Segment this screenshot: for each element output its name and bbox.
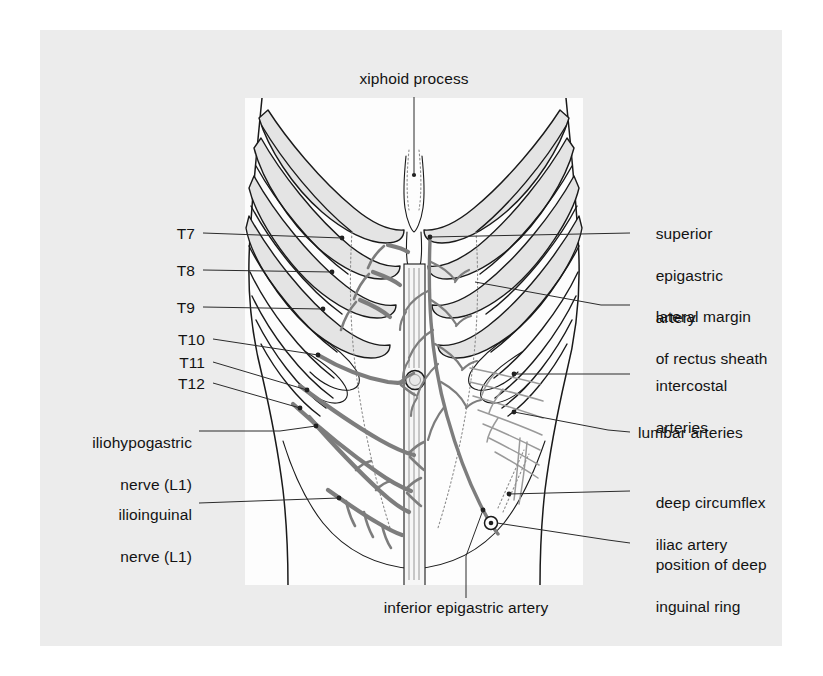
label-t7: T7	[95, 223, 195, 244]
rib-cage-left	[246, 110, 404, 416]
label-iliohypogastric-nerve-line1: iliohypogastric	[92, 434, 192, 451]
label-deep-circumflex-iliac-artery-line1: deep circumflex	[656, 494, 766, 511]
linea-alba	[404, 264, 425, 586]
label-superior-epigastric-artery-line2: epigastric	[656, 267, 723, 284]
label-inferior-epigastric-artery: inferior epigastric artery	[326, 597, 606, 618]
label-ilioinguinal-nerve-line1: ilioinguinal	[118, 506, 192, 523]
label-t8: T8	[95, 260, 195, 281]
label-position-of-deep-inguinal-ring-line2: inguinal ring	[656, 598, 741, 615]
figure-page: .ol { fill:none; stroke:#1a1a1a; stroke-…	[0, 0, 823, 676]
label-position-of-deep-inguinal-ring-line1: position of deep	[656, 556, 767, 573]
deep-circumflex-iliac-artery-vessel	[498, 438, 529, 512]
label-t10: T10	[95, 329, 205, 350]
label-position-of-deep-inguinal-ring: position of deep inguinal ring	[638, 533, 818, 638]
label-t9: T9	[95, 297, 195, 318]
label-t12: T12	[95, 373, 205, 394]
label-lateral-margin-of-rectus-sheath-line1: lateral margin	[656, 308, 751, 325]
label-lumbar-arteries: lumbar arteries	[638, 422, 818, 443]
intercostal-arteries-group	[470, 368, 543, 478]
rib-cage-right	[424, 110, 582, 416]
label-t11: T11	[95, 352, 205, 373]
label-ilioinguinal-nerve-line2: nerve (L1)	[120, 548, 192, 565]
label-xiphoid-process: xiphoid process	[314, 68, 514, 89]
label-ilioinguinal-nerve: ilioinguinal nerve (L1)	[30, 483, 192, 588]
label-intercostal-arteries-line1: intercostal	[656, 377, 728, 394]
label-intercostal-arteries: intercostal arteries	[638, 354, 813, 459]
label-superior-epigastric-artery-line1: superior	[656, 225, 713, 242]
deep-inguinal-ring	[485, 517, 498, 530]
